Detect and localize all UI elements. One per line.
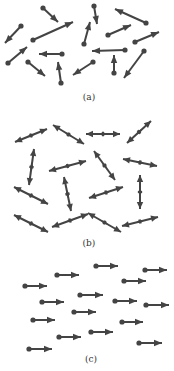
arrowhead-icon xyxy=(52,222,60,228)
arrowhead-icon xyxy=(99,132,104,137)
arrowhead-icon xyxy=(110,263,118,269)
double-arrow-icon xyxy=(49,160,86,173)
arrowhead-icon xyxy=(92,48,100,54)
arrowhead-icon xyxy=(39,51,47,57)
dipole-arrow-icon xyxy=(81,22,91,47)
arrowhead-icon xyxy=(85,22,91,31)
arrowhead-icon xyxy=(111,55,117,63)
arrowhead-icon xyxy=(86,131,93,137)
dipole-tail-dot-icon xyxy=(39,299,44,304)
arrowhead-icon xyxy=(56,299,64,305)
panel-b-double-headed-arrows xyxy=(14,121,158,232)
figure-canvas: (a) (b) (c) xyxy=(0,0,174,371)
double-arrow-icon xyxy=(89,186,123,199)
dipole-arrow-icon xyxy=(39,51,65,57)
dipole-tail-dot-icon xyxy=(112,298,117,303)
arrowhead-icon xyxy=(73,68,81,75)
dipole-arrow-icon xyxy=(143,302,169,308)
dipole-tail-dot-icon xyxy=(40,5,45,10)
dipole-tail-dot-icon xyxy=(88,329,93,334)
double-arrow-icon xyxy=(127,121,151,143)
double-arrow-icon xyxy=(86,131,120,137)
dipole-arrow-icon xyxy=(40,5,58,22)
panel-c-label: (c) xyxy=(85,354,97,364)
arrowhead-icon xyxy=(137,175,143,182)
dipole-tail-dot-icon xyxy=(58,80,63,85)
dipole-arrow-icon xyxy=(71,309,96,315)
dipole-arrow-icon xyxy=(30,317,55,323)
arrowhead-icon xyxy=(73,334,81,340)
dipole-arrow-icon xyxy=(124,48,147,78)
double-arrow-icon xyxy=(94,151,115,180)
double-arrow-icon xyxy=(14,187,48,204)
dipole-arrow-icon xyxy=(56,334,81,340)
dipole-tail-dot-icon xyxy=(18,23,23,28)
dipole-tail-dot-icon xyxy=(136,340,141,345)
dipole-arrow-icon xyxy=(25,59,45,76)
dipole-arrow-icon xyxy=(56,62,64,86)
dipole-tail-dot-icon xyxy=(111,70,116,75)
panel-b-label: (b) xyxy=(83,238,96,248)
arrowhead-icon xyxy=(122,25,131,31)
arrowhead-icon xyxy=(93,16,99,24)
dipole-arrow-icon xyxy=(77,292,103,298)
dipole-tail-dot-icon xyxy=(105,32,110,37)
dipole-arrow-icon xyxy=(5,47,27,66)
double-arrow-icon xyxy=(137,175,143,209)
dipole-arrow-icon xyxy=(39,299,64,305)
dipole-arrow-icon xyxy=(121,278,146,284)
arrowhead-icon xyxy=(105,329,113,335)
arrowhead-icon xyxy=(138,278,146,284)
panel-a-random-dipoles xyxy=(5,3,159,85)
dipole-tail-dot-icon xyxy=(143,302,148,307)
double-arrow-icon xyxy=(15,129,47,143)
double-arrow-icon xyxy=(62,177,72,211)
dipole-arrow-icon xyxy=(105,25,131,38)
dipole-arrow-icon xyxy=(30,22,73,43)
dipole-tail-dot-icon xyxy=(91,3,96,8)
panel-c-aligned-dipoles xyxy=(22,263,169,352)
dipole-arrow-icon xyxy=(22,283,47,289)
dipole-arrow-icon xyxy=(136,340,162,346)
dipole-tail-dot-icon xyxy=(22,283,27,288)
dipole-tail-dot-icon xyxy=(26,346,31,351)
dipole-tail-dot-icon xyxy=(93,263,98,268)
arrowhead-icon xyxy=(161,302,169,308)
double-arrow-icon xyxy=(14,215,48,232)
arrowhead-icon xyxy=(39,283,47,289)
arrowhead-icon xyxy=(115,186,123,192)
dipole-arrow-icon xyxy=(91,3,98,24)
dipole-tail-dot-icon xyxy=(81,41,86,46)
double-arrow-icon xyxy=(53,125,84,144)
arrowhead-icon xyxy=(47,317,55,323)
dipole-arrow-icon xyxy=(88,329,113,335)
arrowhead-icon xyxy=(138,188,143,193)
double-arrow-icon xyxy=(27,149,36,185)
dipole-arrow-icon xyxy=(54,272,79,278)
arrowhead-icon xyxy=(150,32,159,38)
dipole-arrow-icon xyxy=(115,9,149,26)
arrowhead-icon xyxy=(135,319,143,325)
dipole-arrow-icon xyxy=(132,32,159,45)
dipole-tail-dot-icon xyxy=(25,59,30,64)
arrowhead-icon xyxy=(44,346,52,352)
dipole-tail-dot-icon xyxy=(30,317,35,322)
double-arrow-icon xyxy=(122,216,158,228)
dipole-tail-dot-icon xyxy=(90,59,95,64)
dipole-tail-dot-icon xyxy=(56,334,61,339)
double-arrow-icon xyxy=(52,213,88,227)
arrowhead-icon xyxy=(89,193,97,199)
dipole-tail-dot-icon xyxy=(54,272,59,277)
dipole-tail-dot-icon xyxy=(142,267,147,272)
panel-a-label: (a) xyxy=(83,92,95,102)
arrowhead-icon xyxy=(80,213,88,219)
dipole-tail-dot-icon xyxy=(71,309,76,314)
arrowhead-icon xyxy=(64,22,73,28)
dipole-tail-dot-icon xyxy=(77,292,82,297)
dipole-tail-dot-icon xyxy=(119,319,124,324)
arrowhead-icon xyxy=(95,292,103,298)
dipole-tail-dot-icon xyxy=(132,39,137,44)
dipole-arrow-icon xyxy=(112,298,137,304)
dipole-arrow-icon xyxy=(119,319,143,325)
arrowhead-icon xyxy=(88,309,96,315)
